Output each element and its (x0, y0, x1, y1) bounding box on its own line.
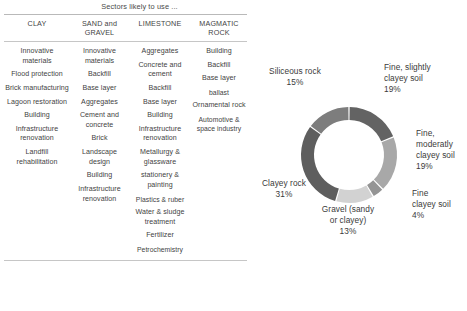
column-clay: Innovative materials Flood protection Br… (4, 45, 70, 169)
column-magmatic-rock: Building Backfill Base layer ballast Orn… (191, 45, 247, 135)
chart-label-text: Gravel (sandy (322, 204, 374, 214)
table-body: Innovative materials Flood protection Br… (4, 42, 247, 256)
table-cell: Lagoon restoration (4, 96, 70, 110)
chart-label-gravel-sandy-or-clayey: Gravel (sandy or clayey) 13% (314, 204, 382, 237)
chart-label-percent: 31% (248, 189, 320, 200)
column-sand-and-gravel: Innovative materials Backfill Base layer… (70, 45, 129, 206)
chart-label-text: clayey soil (384, 73, 423, 83)
table-cell: Building (4, 109, 70, 123)
table-bottom-rule (4, 260, 247, 261)
table-cell: ballast (191, 86, 247, 99)
table-cell: Infrastructure renovation (70, 183, 129, 206)
chart-label-siliceous-rock: Siliceous rock 15% (256, 66, 334, 88)
soil-types-donut-chart: Siliceous rock 15% Fine, slightly clayey… (248, 0, 467, 311)
chart-label-clayey-rock: Clayey rock 31% (248, 178, 320, 200)
table-cell: Backfill (129, 82, 191, 96)
table-cell: Backfill (191, 59, 247, 73)
column-header-sand-and-gravel: SAND and GRAVEL (70, 19, 129, 38)
chart-label-text: Fine, slightly (384, 62, 431, 72)
table-cell: Flood protection (4, 68, 70, 82)
table-cell: Metallurgy & glassware (129, 146, 191, 169)
table-cell: Ornamental rock (191, 99, 247, 113)
chart-label-percent: 19% (416, 161, 467, 172)
table-cell: Landfill rehabilitation (4, 146, 70, 169)
chart-label-fine-moderatly-clayey-soil: Fine, moderatly clayey soil 19% (416, 128, 467, 172)
donut-slice[interactable] (311, 107, 349, 134)
table-cell: Aggregates (129, 45, 191, 59)
donut-slice[interactable] (374, 137, 397, 188)
chart-label-text: clayey soil (416, 150, 455, 160)
table-cell: Infrastructure renovation (129, 123, 191, 146)
chart-label-percent: 19% (384, 84, 460, 95)
table-cell: Landscape design (70, 146, 129, 169)
table-cell: stationery & painting (129, 169, 191, 192)
table-cell: Building (129, 109, 191, 123)
chart-label-percent: 15% (256, 77, 334, 88)
chart-label-text: or clayey) (330, 215, 366, 225)
sectors-table-panel: Sectors likely to use ... CLAY SAND and … (4, 2, 247, 309)
table-cell: Cement and concrete (70, 109, 129, 132)
table-cell: Base layer (129, 96, 191, 110)
table-cell: Brick manufacturing (4, 82, 70, 96)
donut-slice[interactable] (349, 107, 393, 141)
table-cell: Brick (70, 132, 129, 146)
chart-label-text: moderatly (416, 139, 453, 149)
table-cell: Concrete and cement (129, 59, 191, 82)
table-cell: Fertilizer (129, 229, 191, 243)
chart-label-percent: 4% (412, 210, 464, 221)
table-cell: Petrochemistry (129, 243, 191, 256)
table-cell: Innovative materials (4, 45, 70, 68)
chart-label-text: Clayey rock (262, 178, 306, 188)
table-cell: Plastics & ruber (129, 193, 191, 206)
chart-label-text: Siliceous rock (269, 66, 321, 76)
column-header-clay: CLAY (4, 19, 70, 29)
table-cell: Building (191, 45, 247, 59)
table-cell: Aggregates (70, 96, 129, 110)
table-cell: Water & sludge treatment (129, 206, 191, 229)
chart-label-fine-slightly-clayey-soil: Fine, slightly clayey soil 19% (384, 62, 460, 95)
chart-label-text: clayey soil (412, 199, 451, 209)
table-cell: Automotive & space industry (191, 113, 247, 135)
table-cell: Backfill (70, 68, 129, 82)
chart-label-percent: 13% (314, 226, 382, 237)
table-cell: Base layer (70, 82, 129, 96)
column-header-limestone: LIMESTONE (129, 19, 191, 29)
chart-label-fine-clayey-soil: Fine clayey soil 4% (412, 188, 464, 221)
donut-slice[interactable] (336, 185, 372, 203)
table-cell: Infrastructure renovation (4, 123, 70, 146)
table-cell: Innovative materials (70, 45, 129, 68)
chart-label-text: Fine (412, 188, 428, 198)
column-header-magmatic-rock: MAGMATIC ROCK (191, 19, 247, 38)
table-cell: Base layer (191, 72, 247, 86)
table-header-row: CLAY SAND and GRAVEL LIMESTONE MAGMATIC … (4, 15, 247, 41)
table-cell: Building (70, 169, 129, 183)
chart-label-text: Fine, (416, 128, 435, 138)
table-title: Sectors likely to use ... (4, 2, 247, 14)
column-limestone: Aggregates Concrete and cement Backfill … (129, 45, 191, 256)
